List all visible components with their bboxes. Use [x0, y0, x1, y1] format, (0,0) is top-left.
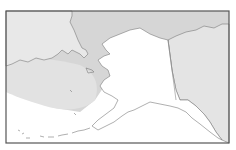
alaska-locator-map — [0, 0, 236, 150]
map-canvas — [0, 0, 236, 150]
